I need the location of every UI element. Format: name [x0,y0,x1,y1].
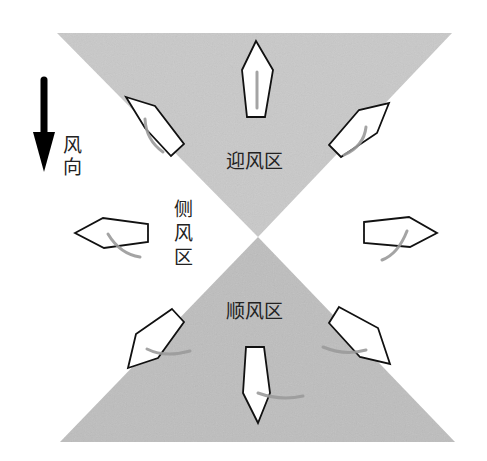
wind-direction-label-char-2: 向 [63,156,82,178]
upwind-zone-label: 迎风区 [226,150,283,172]
crosswind-zone-label-char-2: 风 [174,222,193,244]
downwind-zone-label: 顺风区 [226,300,283,322]
boat-left-icon [75,218,148,257]
sailing-zones-diagram: 风 向 侧 风 区 迎风区 顺风区 [0,0,487,461]
crosswind-zone-label-char-3: 区 [174,246,193,268]
wind-arrow-icon [33,80,55,172]
crosswind-zone-label-char-1: 侧 [174,198,193,220]
boat-right-icon [364,217,437,260]
wind-direction-label-char-1: 风 [63,134,82,156]
